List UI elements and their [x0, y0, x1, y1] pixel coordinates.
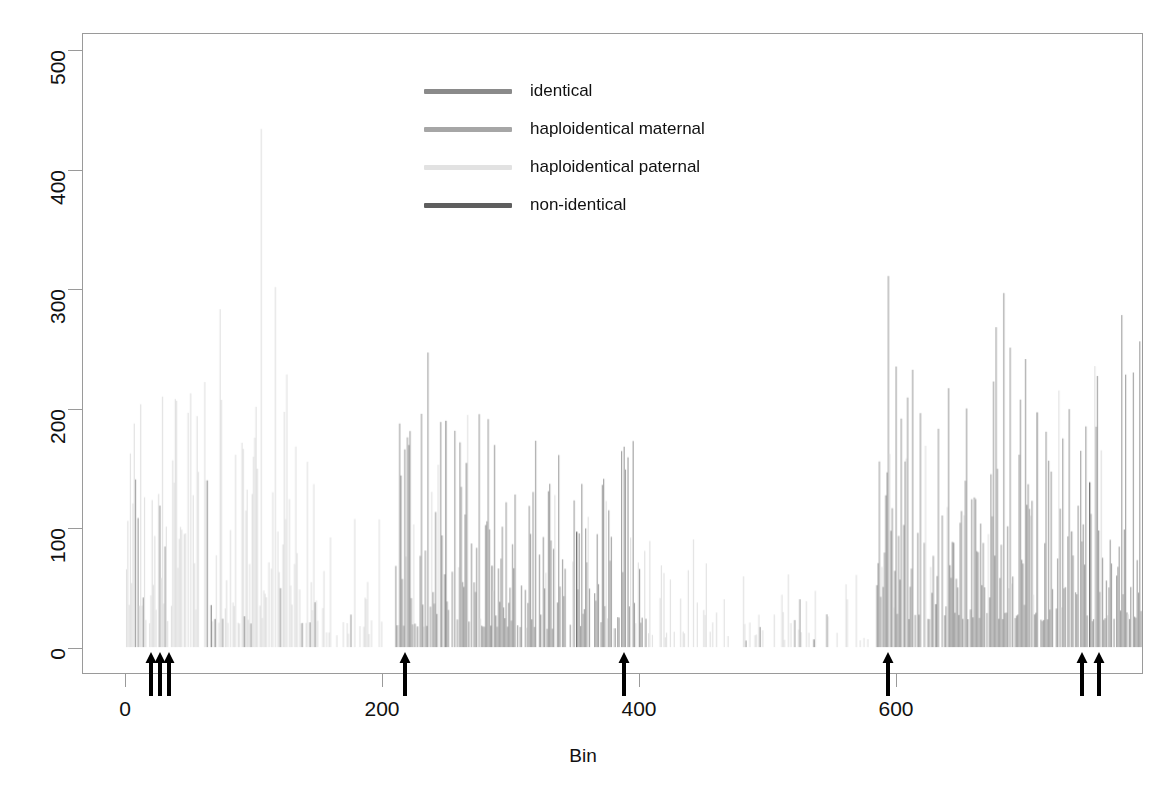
y-tick-100: [68, 528, 82, 529]
legend-label-non-identical: non-identical: [530, 195, 626, 215]
x-tick-label-0: 0: [85, 697, 165, 721]
x-axis-title: Bin: [0, 745, 1166, 767]
legend-item-non-identical: non-identical: [424, 186, 754, 224]
x-tick-600: [896, 674, 897, 687]
legend-swatch-haploidentical-maternal: [424, 127, 512, 132]
y-tick-400: [68, 170, 82, 171]
y-tick-label-200: 200: [46, 409, 70, 467]
legend-label-haploidentical-paternal: haploidentical paternal: [530, 157, 700, 177]
y-tick-label-100: 100: [46, 528, 70, 586]
legend-label-identical: identical: [530, 81, 592, 101]
legend-item-identical: identical: [424, 72, 754, 110]
y-tick-label-300: 300: [46, 289, 70, 347]
legend-item-haploidentical-maternal: haploidentical maternal: [424, 110, 754, 148]
x-tick-label-600: 600: [856, 697, 936, 721]
x-tick-200: [382, 674, 383, 687]
y-tick-200: [68, 409, 82, 410]
legend-swatch-identical: [424, 89, 512, 94]
y-tick-300: [68, 289, 82, 290]
x-tick-label-200: 200: [342, 697, 422, 721]
x-tick-label-400: 400: [599, 697, 679, 721]
y-tick-500: [68, 50, 82, 51]
figure-panel: identical haploidentical maternal haploi…: [0, 0, 1166, 789]
y-tick-label-400: 400: [46, 170, 70, 228]
y-tick-label-0: 0: [46, 648, 70, 706]
y-tick-label-500: 500: [46, 50, 70, 108]
y-tick-0: [68, 648, 82, 649]
legend-label-haploidentical-maternal: haploidentical maternal: [530, 119, 705, 139]
x-tick-0: [125, 674, 126, 687]
legend: identical haploidentical maternal haploi…: [424, 72, 754, 224]
legend-item-haploidentical-paternal: haploidentical paternal: [424, 148, 754, 186]
legend-swatch-haploidentical-paternal: [424, 165, 512, 170]
legend-swatch-non-identical: [424, 203, 512, 208]
x-tick-400: [639, 674, 640, 687]
